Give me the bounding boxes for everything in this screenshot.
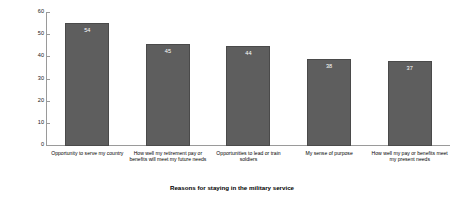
bars-layer: 54 45 44 38 37 — [47, 12, 450, 146]
y-tick-label-20: 20 — [38, 96, 44, 104]
y-tick-label-40: 40 — [38, 51, 44, 59]
bar-slot-2: 44 — [208, 12, 289, 146]
x-category-label-1: How well my retirement pay or benefits w… — [128, 150, 209, 163]
bar-slot-0: 54 — [47, 12, 128, 146]
y-tick-0: 0 — [20, 145, 50, 146]
bar-value-2: 44 — [227, 50, 269, 57]
y-tick-label-10: 10 — [38, 118, 44, 126]
y-tick-20: 20 — [20, 101, 50, 102]
y-tick-50: 50 — [20, 34, 50, 35]
x-axis-title: Reasons for staying in the military serv… — [0, 184, 464, 191]
y-tick-30: 30 — [20, 79, 50, 80]
bar-value-1: 45 — [147, 48, 189, 55]
y-tick-label-30: 30 — [38, 74, 44, 82]
x-category-label-0: Opportunity to serve my country — [47, 150, 128, 156]
y-tick-label-50: 50 — [38, 29, 44, 37]
x-category-label-2: Opportunities to lead or train soldiers — [208, 150, 289, 163]
y-tick-label-60: 60 — [38, 7, 44, 15]
bar-4[interactable]: 37 — [388, 61, 432, 146]
bar-2[interactable]: 44 — [226, 46, 270, 146]
x-category-label-3: My sense of purpose — [289, 150, 370, 156]
bar-slot-3: 38 — [289, 12, 370, 146]
plot-area: 0 10 20 30 40 50 60 — [46, 12, 450, 146]
bar-chart: Percentage chosen (%) 0 10 20 30 40 50 — [0, 0, 464, 202]
bar-1[interactable]: 45 — [146, 44, 190, 147]
bar-slot-1: 45 — [128, 12, 209, 146]
bar-value-3: 38 — [308, 63, 350, 70]
y-tick-60: 60 — [20, 12, 50, 13]
bar-slot-4: 37 — [369, 12, 450, 146]
y-tick-40: 40 — [20, 56, 50, 57]
bar-value-0: 54 — [66, 27, 108, 34]
bar-value-4: 37 — [389, 65, 431, 72]
y-tick-label-0: 0 — [41, 140, 44, 148]
x-category-label-4: How well my pay or benefits meet my pres… — [369, 150, 450, 163]
bar-0[interactable]: 54 — [65, 23, 109, 146]
y-tick-10: 10 — [20, 123, 50, 124]
x-category-labels: Opportunity to serve my country How well… — [47, 150, 450, 176]
bar-3[interactable]: 38 — [307, 59, 351, 146]
